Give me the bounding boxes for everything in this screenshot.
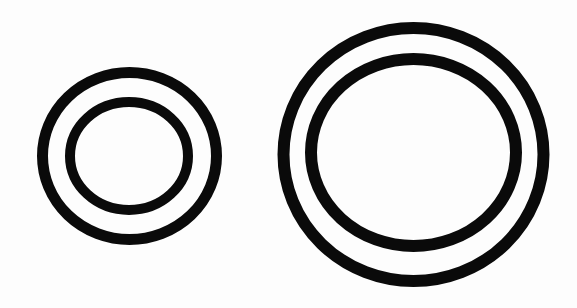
rings-drawing (0, 0, 577, 308)
small-inner-ring (70, 102, 188, 210)
large-concentric-rings (284, 28, 544, 281)
small-concentric-rings (43, 73, 217, 240)
diagram-canvas (0, 0, 577, 308)
large-inner-ring (311, 59, 516, 246)
